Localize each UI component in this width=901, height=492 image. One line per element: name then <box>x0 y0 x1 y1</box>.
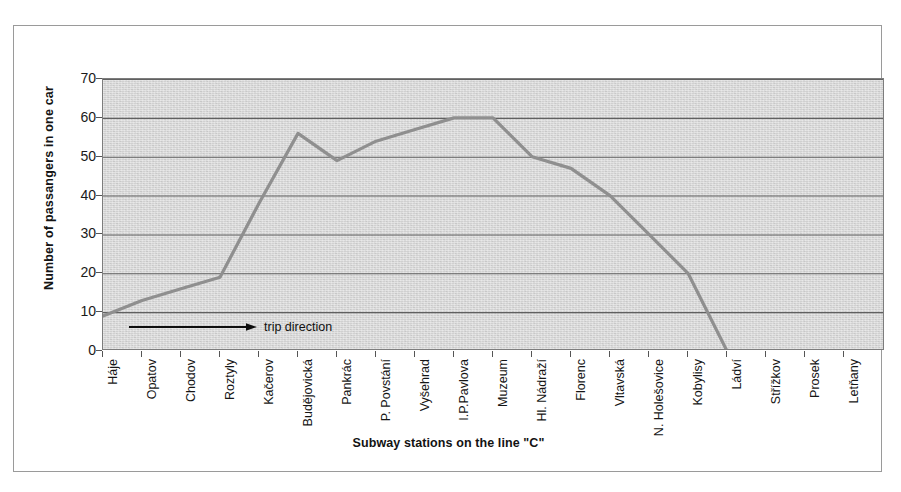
station-name: Letňany <box>848 359 861 403</box>
y-axis-tick-label: 40 <box>50 188 96 202</box>
x-axis-tick-label: Muzeum <box>497 359 510 407</box>
x-axis-tick-label: Střížkov <box>770 359 783 404</box>
x-axis-tick-mark <box>609 351 610 357</box>
x-axis-tick-label: N. Holešovice <box>653 359 666 436</box>
station-name: Opatov <box>146 359 159 399</box>
station-name: Chodov <box>185 359 198 402</box>
x-axis-tick-mark <box>336 351 337 357</box>
data-series-line <box>103 118 727 350</box>
x-axis-tick-label: Florenc <box>575 359 588 401</box>
x-axis-tick-mark <box>648 351 649 357</box>
y-axis-tick-label: 0 <box>50 343 96 357</box>
x-axis-tick-label: P. Povstání <box>380 359 393 421</box>
x-axis-tick-mark <box>687 351 688 357</box>
station-name: Pankrác <box>341 359 354 405</box>
x-axis-tick-mark <box>843 351 844 357</box>
x-axis-tick-mark <box>804 351 805 357</box>
station-name: Muzeum <box>497 359 510 407</box>
x-axis-tick-mark <box>570 351 571 357</box>
x-axis-tick-label: Vltavská <box>614 359 627 406</box>
y-axis-tick-labels: 706050403020100 <box>46 26 96 406</box>
x-axis-tick-label: Háje <box>107 359 120 385</box>
station-name: Prosek <box>809 359 822 398</box>
x-axis-tick-mark <box>141 351 142 357</box>
y-axis-tick-label: 30 <box>50 226 96 240</box>
y-axis-tick-label: 20 <box>50 265 96 279</box>
chart-figure-frame: Number of passangers in one car 70605040… <box>13 25 882 472</box>
station-name: Kobylisy <box>692 359 705 406</box>
y-axis-tick-label: 50 <box>50 149 96 163</box>
x-axis-tick-mark <box>765 351 766 357</box>
x-axis-tick-mark <box>297 351 298 357</box>
x-axis-tick-label: Ládví <box>731 359 744 390</box>
plot-area <box>102 78 884 350</box>
x-axis-tick-mark <box>726 351 727 357</box>
x-axis-tick-mark <box>492 351 493 357</box>
station-name: Vltavská <box>614 359 627 406</box>
x-axis-tick-label: Pankrác <box>341 359 354 405</box>
x-axis-tick-mark <box>414 351 415 357</box>
x-axis-tick-mark <box>180 351 181 357</box>
y-axis-tick-label: 10 <box>50 304 96 318</box>
x-axis-tick-mark <box>219 351 220 357</box>
series-polyline <box>103 118 727 350</box>
station-name: Florenc <box>575 359 588 401</box>
x-axis-tick-label: Vyšehrad <box>419 359 432 411</box>
x-axis-tick-mark <box>531 351 532 357</box>
clipped-text-bleed <box>0 0 901 10</box>
station-name: Hl. Nádraží <box>536 359 549 422</box>
x-axis-tick-mark <box>453 351 454 357</box>
x-axis-title: Subway stations on the line "C" <box>14 436 883 450</box>
x-axis-tick-label: Roztyly <box>224 359 237 400</box>
station-name: Roztyly <box>224 359 237 400</box>
station-name: N. Holešovice <box>653 359 666 436</box>
x-axis-tick-label: Hl. Nádraží <box>536 359 549 422</box>
station-name: Střížkov <box>770 359 783 404</box>
y-axis-tick-label: 70 <box>50 71 96 85</box>
station-name: Budějovická <box>302 359 315 426</box>
y-axis-tick-label: 60 <box>50 110 96 124</box>
x-axis-tick-label: Kobylisy <box>692 359 705 406</box>
x-axis-tick-label: I.P.Pavlova <box>458 359 471 421</box>
station-name: Kačerov <box>263 359 276 405</box>
station-name: P. Povstání <box>380 359 393 421</box>
x-axis-tick-label: Letňany <box>848 359 861 403</box>
x-axis-tick-label: Kačerov <box>263 359 276 405</box>
x-axis-tick-mark <box>375 351 376 357</box>
x-axis-tick-label: Prosek <box>809 359 822 398</box>
x-axis-tick-mark <box>102 351 103 357</box>
station-name: I.P.Pavlova <box>458 359 471 421</box>
station-name: Ládví <box>731 359 744 390</box>
chart-canvas <box>103 79 884 350</box>
station-name: Háje <box>107 359 120 385</box>
x-axis-tick-mark <box>258 351 259 357</box>
x-axis-tick-label: Opatov <box>146 359 159 399</box>
x-axis-tick-label: Chodov <box>185 359 198 402</box>
x-axis-tick-marks <box>102 351 885 358</box>
x-axis-tick-label: Budějovická <box>302 359 315 426</box>
station-name: Vyšehrad <box>419 359 432 411</box>
